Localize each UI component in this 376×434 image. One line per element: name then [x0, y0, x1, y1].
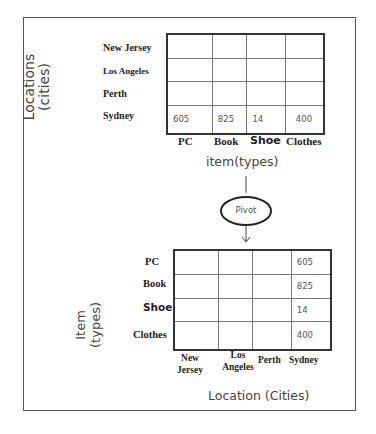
- bottom-grid-cell: [253, 298, 291, 321]
- bottom-grid-cell: [253, 250, 291, 274]
- bottom-horizontal-axis-label: Location (Cities): [208, 388, 309, 403]
- bottom-grid-cell: [218, 298, 252, 321]
- bottom-col-label-sydney: Sydney: [289, 355, 319, 365]
- bottom-grid-cell: [218, 321, 252, 350]
- bottom-grid-row-shoe: 14: [174, 298, 331, 321]
- bottom-col-label-perth: Perth: [258, 355, 281, 365]
- bottom-row-label-clothes: Clothes: [133, 329, 167, 340]
- bottom-col-label-new-jersey-line1: New: [170, 352, 210, 364]
- bottom-grid-row-book: 825: [174, 274, 331, 298]
- bottom-grid-cell: [174, 250, 218, 274]
- bottom-grid-cell: [174, 274, 218, 298]
- bottom-grid-cell: [174, 321, 218, 350]
- bottom-vertical-axis-label: Item (types): [73, 295, 107, 355]
- bottom-grid-cell: [253, 321, 291, 350]
- bottom-grid-cell-clothes-sydney: 400: [291, 321, 331, 350]
- bottom-col-label-new-jersey: New Jersey: [170, 352, 210, 376]
- bottom-grid-cell: [218, 250, 252, 274]
- bottom-grid-cell-shoe-sydney: 14: [291, 298, 331, 321]
- bottom-data-grid: 605 825 14 400: [173, 249, 332, 351]
- bottom-row-label-pc: PC: [145, 256, 159, 267]
- bottom-col-label-los-angeles-line2: Angeles: [216, 361, 260, 373]
- bottom-col-label-new-jersey-line2: Jersey: [170, 364, 210, 376]
- bottom-row-label-book: Book: [143, 278, 166, 289]
- bottom-grid-row-pc: 605: [174, 250, 331, 274]
- bottom-grid-cell: [218, 274, 252, 298]
- bottom-grid-row-clothes: 400: [174, 321, 331, 350]
- bottom-grid-cell-book-sydney: 825: [291, 274, 331, 298]
- bottom-col-label-los-angeles: Los Angeles: [216, 349, 260, 373]
- bottom-vertical-axis-label-line1: Item: [73, 295, 88, 355]
- pivot-label: Pivot: [221, 205, 271, 215]
- bottom-vertical-axis-label-line2: (types): [88, 295, 103, 355]
- bottom-grid-cell: [253, 274, 291, 298]
- bottom-grid-cell: [174, 298, 218, 321]
- bottom-row-label-shoe: Shoe: [143, 301, 172, 313]
- bottom-col-label-los-angeles-line1: Los: [216, 349, 260, 361]
- bottom-grid-cell-pc-sydney: 605: [291, 250, 331, 274]
